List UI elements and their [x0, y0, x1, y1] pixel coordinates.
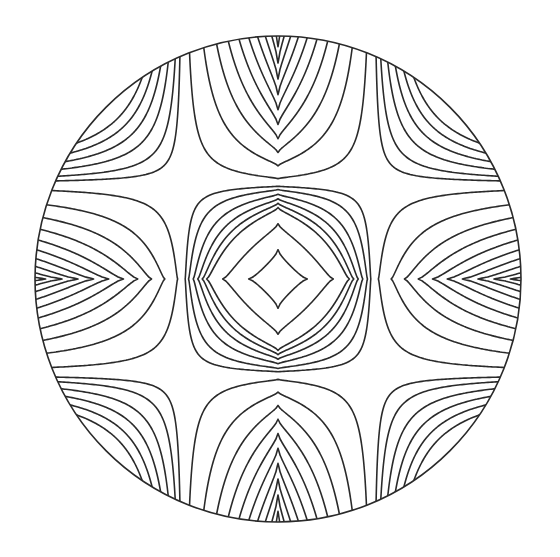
contour-plot [0, 0, 560, 557]
contour-figure: Concentric astroid contour pattern [0, 0, 560, 557]
